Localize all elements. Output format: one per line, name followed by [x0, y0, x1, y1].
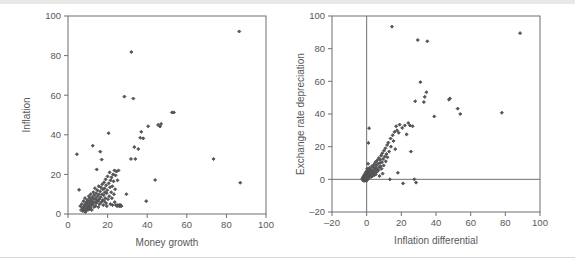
- data-point: [405, 133, 408, 136]
- data-point: [389, 145, 392, 148]
- y-axis-tick-label: 60: [314, 76, 325, 87]
- data-point: [145, 200, 148, 203]
- scatter-chart-inflation-differential-depreciation: –20020406080100–20020406080100Inflation …: [290, 0, 575, 258]
- data-point: [102, 204, 105, 207]
- y-axis-tick-label: 80: [50, 50, 61, 61]
- data-point: [456, 107, 459, 110]
- data-point: [398, 123, 401, 126]
- data-point: [104, 178, 107, 181]
- data-point: [99, 190, 102, 193]
- data-point: [238, 30, 241, 33]
- plot-frame: [68, 16, 266, 214]
- data-point: [367, 162, 370, 165]
- data-point: [129, 157, 132, 160]
- y-axis-tick-label: –20: [309, 206, 325, 217]
- data-point-group: [361, 25, 522, 185]
- y-axis-tick-label: 20: [314, 141, 325, 152]
- data-point: [384, 160, 387, 163]
- data-point: [103, 187, 106, 190]
- x-axis-tick-label: 40: [431, 217, 442, 228]
- x-axis-tick-label: 20: [102, 219, 113, 230]
- x-axis-tick-label: 100: [258, 219, 274, 230]
- data-point: [419, 81, 422, 84]
- data-point: [107, 132, 110, 135]
- figure-page: 020406080100020406080100Money growthInfl…: [0, 0, 575, 267]
- y-axis-tick-label: 100: [309, 10, 325, 21]
- data-point: [368, 127, 371, 130]
- data-point: [391, 134, 394, 137]
- data-point: [367, 141, 370, 144]
- data-point: [147, 125, 150, 128]
- data-point: [130, 50, 133, 53]
- bottom-divider-rule: [0, 257, 575, 258]
- data-point: [110, 176, 113, 179]
- x-axis-tick-label: 0: [364, 217, 369, 228]
- data-point: [112, 193, 115, 196]
- data-point: [402, 182, 405, 185]
- data-point: [433, 115, 436, 118]
- data-point: [106, 175, 109, 178]
- data-point: [384, 147, 387, 150]
- data-point: [396, 171, 399, 174]
- data-point: [102, 181, 105, 184]
- x-axis-tick-label: 100: [532, 217, 548, 228]
- data-point: [95, 168, 98, 171]
- y-axis-tick-label: 0: [56, 208, 61, 219]
- data-point: [139, 136, 142, 139]
- x-axis-title: Money growth: [136, 237, 199, 248]
- data-point: [426, 40, 429, 43]
- y-axis-tick-label: 40: [50, 129, 61, 140]
- data-point: [134, 157, 137, 160]
- data-point: [413, 178, 416, 181]
- data-point: [380, 167, 383, 170]
- data-point: [78, 188, 81, 191]
- y-axis-tick-label: 20: [50, 169, 61, 180]
- data-point: [110, 191, 113, 194]
- data-point: [142, 137, 145, 140]
- data-point: [97, 206, 100, 209]
- data-point: [111, 204, 114, 207]
- data-point: [415, 181, 418, 184]
- data-point: [99, 196, 102, 199]
- data-point: [519, 32, 522, 35]
- data-point: [75, 153, 78, 156]
- y-axis-tick-label: 80: [314, 43, 325, 54]
- data-point: [403, 124, 406, 127]
- data-point-group: [75, 30, 241, 214]
- data-point: [401, 126, 404, 129]
- data-point: [385, 152, 388, 155]
- data-point: [388, 178, 391, 181]
- data-point: [172, 111, 175, 114]
- data-point: [116, 179, 119, 182]
- data-point: [411, 125, 414, 128]
- data-point: [382, 164, 385, 167]
- data-point: [90, 208, 93, 211]
- data-point: [239, 181, 242, 184]
- data-point: [123, 95, 126, 98]
- data-point: [91, 144, 94, 147]
- data-point: [108, 195, 111, 198]
- data-point: [386, 156, 389, 159]
- data-point: [387, 141, 390, 144]
- x-axis-tick-label: 0: [65, 219, 70, 230]
- plot-canvas-left: 020406080100020406080100Money growthInfl…: [0, 0, 290, 258]
- data-point: [425, 91, 428, 94]
- data-point: [99, 150, 102, 153]
- x-axis-tick-label: 40: [142, 219, 153, 230]
- data-point: [105, 192, 108, 195]
- x-axis-tick-label: 60: [465, 217, 476, 228]
- data-point: [416, 38, 419, 41]
- data-point: [106, 189, 109, 192]
- y-axis-tick-label: 40: [314, 108, 325, 119]
- data-point: [422, 101, 425, 104]
- data-point: [394, 148, 397, 151]
- data-point: [117, 169, 120, 172]
- scatter-chart-money-growth-inflation: 020406080100020406080100Money growthInfl…: [0, 0, 290, 258]
- plot-frame: [332, 16, 540, 212]
- data-point: [500, 111, 503, 114]
- data-point: [111, 185, 114, 188]
- data-point: [100, 158, 103, 161]
- data-point: [389, 137, 392, 140]
- data-point: [114, 174, 117, 177]
- data-point: [125, 193, 128, 196]
